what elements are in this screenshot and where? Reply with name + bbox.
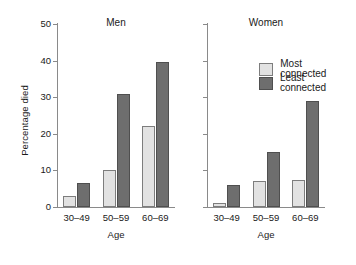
x-tick-label: 50–59: [253, 212, 279, 223]
bar: [156, 62, 169, 207]
x-tick-label: 50–59: [103, 212, 129, 223]
legend: Most connected Least connected: [259, 62, 331, 90]
y-tick-label-40: 40: [40, 56, 51, 66]
bar: [103, 170, 116, 207]
y-axis-women: [207, 23, 208, 208]
y-tick-40: [203, 61, 207, 62]
y-tick-label-0: 0: [46, 202, 51, 212]
x-tick-label: 30–49: [213, 212, 239, 223]
bar: [63, 196, 76, 207]
bar: [267, 152, 280, 207]
y-tick-30: [203, 97, 207, 98]
panel-men: Men 01020304050 Age 30–4950–5960–69: [57, 0, 175, 265]
legend-swatch-icon-most-connected: [259, 63, 273, 76]
plot-area-men: 01020304050: [57, 24, 175, 207]
x-axis-women: [207, 207, 325, 208]
legend-item-least-connected: Least connected: [259, 76, 331, 90]
y-tick-label-20: 20: [40, 129, 51, 139]
bar: [213, 203, 226, 207]
x-tick-label: 60–69: [142, 212, 168, 223]
y-tick-30: [53, 97, 57, 98]
bar: [77, 183, 90, 207]
y-axis-label: Percentage died: [19, 51, 30, 191]
y-tick-0: [203, 207, 207, 208]
y-tick-label-30: 30: [40, 92, 51, 102]
bar: [253, 181, 266, 207]
x-tick-label: 30–49: [63, 212, 89, 223]
figure: Percentage died Men 01020304050 Age 30–4…: [0, 0, 356, 265]
bar: [292, 180, 305, 207]
x-axis-label-men: Age: [57, 229, 175, 240]
legend-label-least-connected: Least connected: [280, 73, 331, 93]
plot-area-women: Most connected Least connected: [207, 24, 325, 207]
x-tick-label: 60–69: [292, 212, 318, 223]
bar: [117, 94, 130, 207]
x-axis-men: [57, 207, 175, 208]
y-axis-men: [57, 23, 58, 208]
y-tick-10: [203, 170, 207, 171]
bar: [227, 185, 240, 207]
y-tick-label-10: 10: [40, 166, 51, 176]
panel-women: Women Most connected Least connected Age…: [207, 0, 325, 265]
x-axis-label-women: Age: [207, 229, 325, 240]
bar: [306, 101, 319, 207]
y-tick-10: [53, 170, 57, 171]
y-tick-20: [53, 134, 57, 135]
y-tick-0: [53, 207, 57, 208]
y-tick-label-50: 50: [40, 19, 51, 29]
legend-swatch-icon-least-connected: [259, 77, 273, 90]
y-tick-50: [203, 24, 207, 25]
y-tick-40: [53, 61, 57, 62]
y-tick-20: [203, 134, 207, 135]
y-tick-50: [53, 24, 57, 25]
bar: [142, 126, 155, 207]
